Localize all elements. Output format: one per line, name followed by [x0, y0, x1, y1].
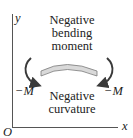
beam	[41, 65, 97, 77]
right-moment-label: −M	[104, 85, 123, 98]
x-axis-label: x	[122, 120, 128, 133]
moment-title-line-3: moment	[42, 40, 102, 53]
y-axis-label: y	[15, 12, 21, 25]
curvature-label: Negative curvature	[42, 90, 102, 116]
bending-moment-diagram: y x O Negative bending moment −M −M Nega…	[0, 0, 133, 138]
right-moment-arrow-icon	[100, 58, 112, 85]
curvature-line-2: curvature	[42, 103, 102, 116]
origin-label: O	[3, 126, 12, 138]
left-moment-label: −M	[15, 85, 34, 98]
left-moment-arrow-icon	[26, 58, 38, 85]
moment-title: Negative bending moment	[42, 14, 102, 53]
